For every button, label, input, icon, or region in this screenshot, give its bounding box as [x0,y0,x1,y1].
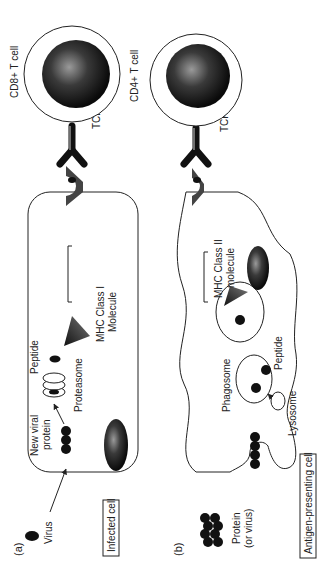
protein-label-1: Protein [231,512,242,544]
diagram-stage: (a) Virus Infected cell New viral protei… [0,0,323,564]
virus-label: Virus [43,521,54,544]
cd8-t-cell-nucleus-icon [42,40,110,108]
proteasome-icon [43,373,65,397]
phagosome-label: Phagosome [221,358,232,412]
mhc-class-ii-label-1: MHC Class II [213,239,224,298]
lysosome-icon [271,392,285,410]
panel-b: (b) Protein (or virus) Antigen-presentin… [129,34,316,558]
cd8-t-cell-label: CD8+ T cell [9,46,20,98]
cd4-t-cell-label: CD4+ T cell [129,50,140,102]
bracket-b-icon [204,252,208,302]
engulfed-protein-icon [250,432,260,469]
cd4-t-cell-nucleus-icon [166,44,230,108]
bracket-icon [68,246,72,302]
mhc-class-i-label-2: Molecule [107,292,118,332]
virus-icon [25,531,39,541]
infection-arrow [50,469,66,512]
surface-mhc-class-i-icon [66,166,83,206]
phagosome-fragment-icon [251,383,261,393]
tcr-icon [60,126,84,164]
mhc-class-i-icon [64,316,90,346]
phagosome-fragment-icon [261,365,271,375]
mhc-class-i-label-1: MHC Class I [95,286,106,342]
infected-cell-label: Infected cell [106,499,117,552]
surface-mhc-class-ii-icon [192,168,204,206]
panel-b-label: (b) [172,543,184,556]
nucleus-icon [104,419,128,471]
vesicle-peptide-icon [235,315,245,325]
presented-peptide-icon [68,177,76,183]
lysosome-label: Lysosome [287,390,298,436]
proteasome-label: Proteasome [73,358,84,412]
tcr-b-icon [184,128,208,164]
panel-a: (a) Virus Infected cell New viral protei… [9,26,138,556]
protein-label-2: (or virus) [243,509,254,548]
phagosome-icon [236,355,272,403]
lysosome-fusion-arrow [268,394,272,398]
presented-peptide-b-icon [193,177,201,183]
apc-nucleus-icon [247,246,269,290]
apc-label: Antigen-presenting cell [303,452,314,554]
new-viral-protein-label-1: New viral [29,415,40,456]
mhc-class-ii-label-2: molecule [225,248,236,288]
new-viral-protein-label-2: protein [41,419,52,450]
antigen-presentation-diagram: (a) Virus Infected cell New viral protei… [0,0,323,564]
peptide-label: Peptide [29,340,40,374]
viral-protein-chain-icon [61,426,71,454]
panel-a-label: (a) [12,543,24,556]
protein-cluster-icon [200,513,223,547]
peptide-icon [50,356,61,363]
peptide-b-label: Peptide [273,336,284,370]
processing-arrow [54,404,64,424]
